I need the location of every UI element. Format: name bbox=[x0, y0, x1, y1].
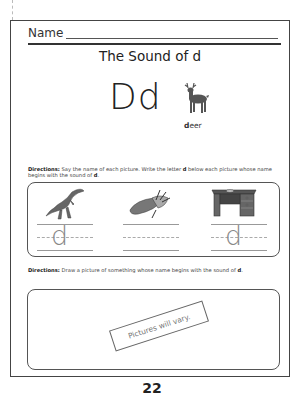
answer-letter: d bbox=[225, 221, 242, 251]
page-number: 22 bbox=[0, 380, 304, 396]
corn-icon bbox=[126, 186, 176, 221]
answer-line-2[interactable] bbox=[123, 224, 179, 252]
name-input-line[interactable] bbox=[66, 38, 278, 39]
directions-2: Directions: Draw a picture of something … bbox=[28, 267, 283, 273]
drawing-box[interactable]: Pictures will vary. bbox=[27, 289, 280, 370]
dinosaur-icon bbox=[38, 186, 88, 221]
answer-stamp: Pictures will vary. bbox=[109, 300, 209, 351]
example-word: deer bbox=[184, 121, 202, 130]
worksheet-frame: Name The Sound of d Dd deer Directions: … bbox=[10, 20, 290, 377]
page-edge bbox=[12, 0, 13, 20]
directions-1: Directions: Say the name of each picture… bbox=[28, 166, 283, 178]
desk-icon bbox=[210, 186, 260, 221]
letter-display: Dd bbox=[109, 76, 162, 117]
answer-letter: d bbox=[51, 221, 68, 251]
deer-icon bbox=[181, 81, 211, 117]
header-divider bbox=[28, 43, 281, 45]
answer-line-3[interactable]: d bbox=[211, 224, 267, 252]
answer-line-1[interactable]: d bbox=[37, 224, 93, 252]
page-title: The Sound of d bbox=[11, 48, 289, 64]
name-row: Name bbox=[28, 26, 278, 42]
name-label: Name bbox=[28, 26, 63, 40]
picture-box: d bbox=[27, 182, 280, 257]
